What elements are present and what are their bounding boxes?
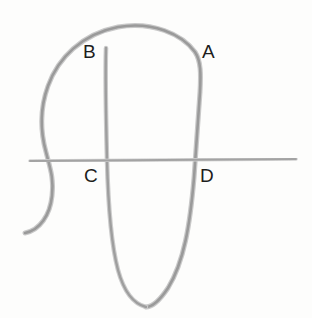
curve-diagram-canvas bbox=[0, 0, 312, 318]
inner-stroke-curve bbox=[106, 48, 146, 307]
point-label-d: D bbox=[200, 166, 214, 185]
outer-loop-halo bbox=[25, 26, 200, 307]
inner-stroke-halo bbox=[106, 48, 146, 307]
point-label-a: A bbox=[202, 42, 215, 61]
figure-root: A B C D bbox=[0, 0, 312, 318]
point-label-c: C bbox=[84, 166, 98, 185]
point-label-b: B bbox=[83, 42, 96, 61]
